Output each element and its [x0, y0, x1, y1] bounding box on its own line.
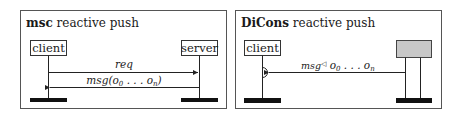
- dicons-client-end-bar: [244, 98, 281, 103]
- msc-msg-message: msg(o0 . . . on): [50, 74, 200, 88]
- msc-panel: msc reactive push client server req msg(…: [21, 11, 227, 109]
- dicons-title: DiCons reactive push: [241, 16, 375, 30]
- msc-client-label: client: [32, 41, 65, 55]
- msc-title-bold: msc: [26, 16, 53, 30]
- dicons-client-socket-icon: [263, 68, 268, 78]
- msc-req-message: req: [49, 58, 199, 73]
- msc-title-rest: reactive push: [53, 16, 139, 30]
- msc-server-end-bar: [181, 98, 218, 102]
- dicons-server-participant: [396, 41, 432, 104]
- msc-msg-label: msg(o0 . . . on): [86, 74, 161, 88]
- msc-server-label: server: [181, 41, 219, 55]
- dicons-title-bold: DiCons: [241, 16, 289, 30]
- diagram-canvas: msc reactive push client server req msg(…: [0, 0, 461, 116]
- dicons-msg-message: msg◁ o0 . . . on: [269, 59, 406, 73]
- dicons-server-box: [397, 41, 432, 58]
- dicons-client-label: client: [246, 41, 279, 55]
- dicons-title-rest: reactive push: [289, 16, 375, 30]
- msc-title: msc reactive push: [26, 16, 139, 30]
- msc-client-participant: client: [30, 41, 67, 103]
- dicons-panel: DiCons reactive push client msg◁ o0 . . …: [236, 11, 442, 109]
- dicons-msg-label: msg◁ o0 . . . on: [301, 59, 375, 73]
- msc-client-end-bar: [30, 98, 67, 102]
- msc-server-participant: server: [181, 41, 219, 103]
- dicons-client-participant: client: [244, 41, 281, 104]
- dicons-server-end-bar: [396, 98, 432, 103]
- msc-req-label: req: [115, 58, 133, 70]
